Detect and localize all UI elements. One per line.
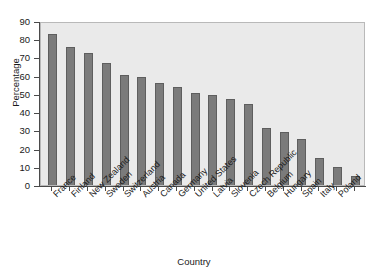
bar-slot <box>62 23 80 185</box>
bar-slot <box>240 23 258 185</box>
bar-slot <box>311 23 329 185</box>
x-label-slot: Finland <box>61 192 79 252</box>
x-label-slot: Switzerland <box>114 192 132 252</box>
x-label-slot: Germany <box>168 192 186 252</box>
y-tick-label: 40 <box>6 108 30 118</box>
bar-slot <box>44 23 62 185</box>
x-label-slot: Czech Republic <box>239 192 257 252</box>
bar <box>333 167 342 185</box>
y-tick-label: 20 <box>6 145 30 155</box>
x-axis-title: Country <box>0 256 388 267</box>
x-label-slot: France <box>43 192 61 252</box>
bar-slot <box>168 23 186 185</box>
y-tick-label: 90 <box>6 17 30 27</box>
bar-slot <box>346 23 364 185</box>
y-tick-label: 30 <box>6 126 30 136</box>
x-label-slot: New Zealand <box>79 192 97 252</box>
x-label-slot: Sweden <box>96 192 114 252</box>
y-tick-label: 80 <box>6 35 30 45</box>
x-label-slot: Poland <box>328 192 346 252</box>
bar-series <box>41 23 364 185</box>
y-tick-label: 70 <box>6 53 30 63</box>
y-tick-label: 50 <box>6 90 30 100</box>
x-label-slot: Latvia <box>203 192 221 252</box>
bar-slot <box>80 23 98 185</box>
bar <box>48 34 57 185</box>
x-label-slot: Italy <box>310 192 328 252</box>
y-axis-ticks: 0102030405060708090 <box>0 0 40 278</box>
bar <box>102 63 111 185</box>
x-label-slot: Spain <box>292 192 310 252</box>
bar-slot <box>293 23 311 185</box>
x-label-slot: Belgium <box>257 192 275 252</box>
bar-slot <box>329 23 347 185</box>
x-label-slot: Hungary <box>274 192 292 252</box>
bar <box>84 53 93 185</box>
x-label-slot: Slovenia <box>221 192 239 252</box>
y-tick-label: 10 <box>6 163 30 173</box>
bar-slot <box>97 23 115 185</box>
bar-slot <box>186 23 204 185</box>
bar-slot <box>204 23 222 185</box>
y-tick-label: 0 <box>6 181 30 191</box>
bar-slot <box>257 23 275 185</box>
y-axis-line <box>39 22 40 187</box>
bar <box>226 99 235 185</box>
x-label-slot: United States <box>185 192 203 252</box>
x-axis-labels: FranceFinlandNew ZealandSwedenSwitzerlan… <box>40 192 368 252</box>
x-label-slot: Austria <box>132 192 150 252</box>
x-label-slot: Canada <box>150 192 168 252</box>
plot-area <box>40 22 365 186</box>
bar-chart: Percentage 0102030405060708090 FranceFin… <box>0 0 388 278</box>
x-label-slot <box>346 192 364 252</box>
bar <box>66 47 75 185</box>
y-tick-label: 60 <box>6 72 30 82</box>
bar-slot <box>133 23 151 185</box>
